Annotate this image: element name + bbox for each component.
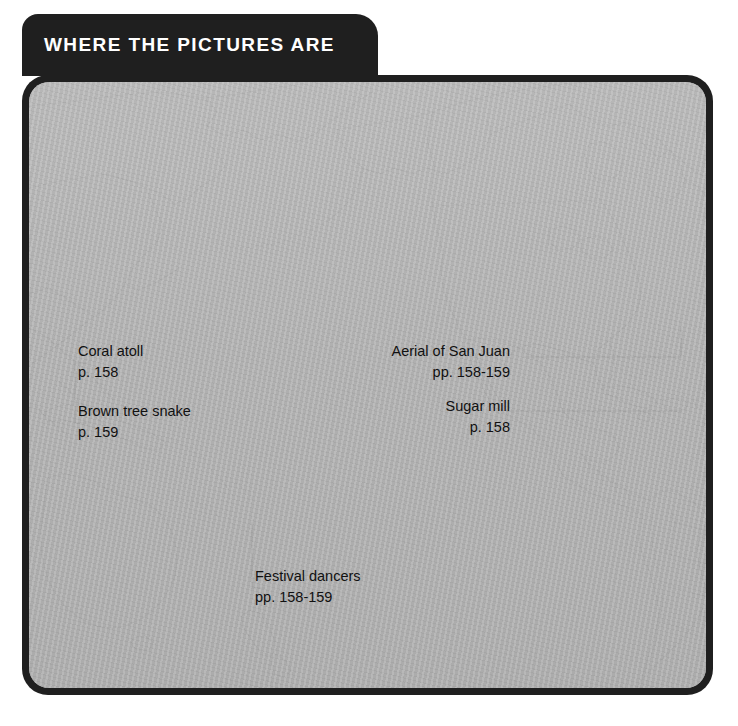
callout-label-pages: pp. 158-159 [255,587,361,608]
map-plate [29,82,706,688]
callout-label-name: Festival dancers [255,566,361,587]
callout-label-pages: p. 158 [318,417,510,438]
callout-label-name: Aerial of San Juan [318,341,510,362]
callout-coral-atoll: Coral atoll p. 158 [78,341,143,382]
callout-sugar-mill: Sugar mill p. 158 [318,396,510,437]
banner-tab: WHERE THE PICTURES ARE [22,14,378,76]
map-frame [22,75,713,695]
callout-festival-dancers: Festival dancers pp. 158-159 [255,566,361,607]
callout-label-name: Sugar mill [318,396,510,417]
world-map-graphic [29,82,706,688]
callout-label-pages: pp. 158-159 [318,362,510,383]
callout-aerial-san-juan: Aerial of San Juan pp. 158-159 [318,341,510,382]
callout-label-name: Brown tree snake [78,401,191,422]
callout-brown-tree-snake: Brown tree snake pp. 158-159 p. 159 [78,401,191,442]
callout-label-pages: p. 158 [78,362,143,383]
leader-line-aerial-san-juan [525,328,681,357]
callout-label-name: Coral atoll [78,341,143,362]
page-title: WHERE THE PICTURES ARE [22,34,335,56]
callout-label-pages: p. 159 [78,422,191,443]
where-the-pictures-are-figure: WHERE THE PICTURES ARE Coral atoll p. 15… [0,0,738,726]
